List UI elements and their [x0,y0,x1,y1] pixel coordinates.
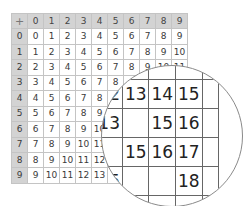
magnified-cell: 16 [149,138,176,167]
sum-cell: 7 [76,91,92,106]
column-header: 7 [140,14,156,29]
magnified-cell: 15 [176,80,203,109]
column-header: 6 [124,14,140,29]
sum-cell: 6 [76,75,92,90]
magnified-cell [176,196,203,207]
column-header: 3 [76,14,92,29]
column-header: 9 [172,14,188,29]
sum-cell: 7 [44,122,60,137]
sum-cell: 7 [28,137,44,152]
sum-cell: 9 [60,137,76,152]
magnified-cell [101,138,122,167]
row-header: 8 [12,152,28,167]
sum-cell: 6 [60,91,76,106]
table-row: 112345678910 [12,44,188,59]
magnified-cell [101,65,122,80]
magnified-cell [122,65,149,80]
column-header: 4 [92,14,108,29]
magnified-cell: 14 [149,80,176,109]
sum-cell: 7 [124,44,140,59]
row-header: 5 [12,106,28,121]
sum-cell: 4 [28,91,44,106]
magnified-cell [122,196,149,207]
magnified-cell: 16 [176,109,203,138]
sum-cell: 10 [76,137,92,152]
sum-cell: 0 [28,29,44,44]
plus-operator-cell: + [12,14,28,29]
sum-cell: 7 [140,29,156,44]
sum-cell: 12 [76,168,92,183]
row-header: 7 [12,137,28,152]
row-header: 3 [12,75,28,90]
sum-cell: 8 [44,137,60,152]
row-header: 4 [12,91,28,106]
row-header: 9 [12,168,28,183]
magnifier-lens: 121314151315161516171518 [101,65,243,206]
sum-cell: 5 [76,60,92,75]
sum-cell: 3 [44,60,60,75]
sum-cell: 9 [28,168,44,183]
sum-cell: 2 [28,60,44,75]
magnified-cell [149,196,176,207]
sum-cell: 6 [124,29,140,44]
sum-cell: 9 [156,44,172,59]
sum-cell: 5 [92,44,108,59]
magnified-row: 1518 [101,167,219,196]
magnified-cell [176,65,203,80]
sum-cell: 2 [44,44,60,59]
column-header: 8 [156,14,172,29]
magnified-cell [149,167,176,196]
magnified-row: 12131415 [101,80,219,109]
magnified-row: 151617 [101,138,219,167]
sum-cell: 4 [92,29,108,44]
magnified-cell: 15 [101,167,122,196]
magnified-cell [149,65,176,80]
magnified-row [101,196,219,207]
sum-cell: 5 [108,29,124,44]
sum-cell: 4 [44,75,60,90]
row-header: 1 [12,44,28,59]
column-header: 1 [44,14,60,29]
sum-cell: 10 [172,44,188,59]
sum-cell: 9 [76,122,92,137]
row-header: 0 [12,29,28,44]
sum-cell: 7 [60,106,76,121]
sum-cell: 8 [60,122,76,137]
column-header: 0 [28,14,44,29]
header-row: +0123456789 [12,14,188,29]
sum-cell: 3 [28,75,44,90]
sum-cell: 1 [44,29,60,44]
sum-cell: 3 [76,29,92,44]
magnified-cell [202,65,218,80]
magnified-cell: 13 [101,109,122,138]
magnified-cell [122,109,149,138]
row-header: 2 [12,60,28,75]
magnified-cell: 12 [101,80,122,109]
magnified-cell [202,80,218,109]
sum-cell: 8 [140,44,156,59]
sum-cell: 5 [44,91,60,106]
sum-cell: 1 [28,44,44,59]
sum-cell: 4 [60,60,76,75]
magnified-cell: 17 [176,138,203,167]
sum-cell: 5 [60,75,76,90]
magnified-cell [202,109,218,138]
sum-cell: 5 [28,106,44,121]
magnified-cell [122,167,149,196]
magnified-grid: 121314151315161516171518 [101,65,219,206]
column-header: 2 [60,14,76,29]
sum-cell: 8 [28,152,44,167]
column-header: 5 [108,14,124,29]
sum-cell: 8 [76,106,92,121]
sum-cell: 6 [44,106,60,121]
sum-cell: 6 [28,122,44,137]
magnified-cell [202,167,218,196]
sum-cell: 11 [76,152,92,167]
sum-cell: 3 [60,44,76,59]
row-header: 6 [12,122,28,137]
sum-cell: 10 [44,168,60,183]
sum-cell: 9 [44,152,60,167]
sum-cell: 8 [156,29,172,44]
sum-cell: 2 [60,29,76,44]
table-row: 00123456789 [12,29,188,44]
